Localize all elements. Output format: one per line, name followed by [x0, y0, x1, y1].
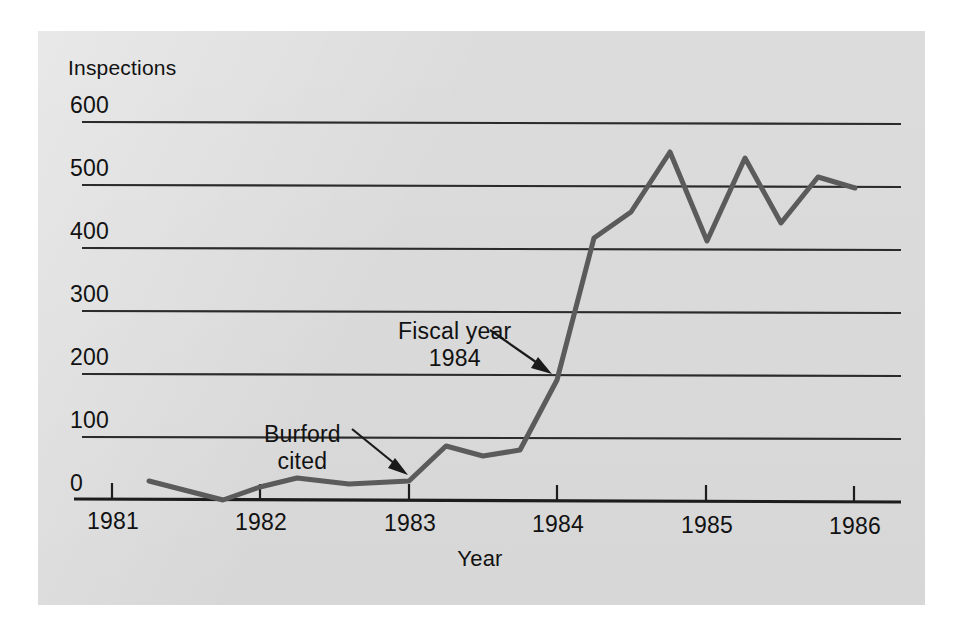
- y-tick-label-0: 0: [70, 470, 83, 497]
- y-axis-title: Inspections: [68, 56, 176, 80]
- y-tick-label-300: 300: [70, 281, 109, 308]
- gridline-500: [82, 185, 901, 187]
- annotation-fiscal-year: Fiscal year 1984: [398, 318, 511, 372]
- x-tick-label-1981: 1981: [87, 508, 139, 535]
- gridline-600: [82, 122, 901, 124]
- annotation-burford-line2: cited: [264, 448, 341, 475]
- gridline-100: [82, 437, 901, 439]
- x-tick-label-1984: 1984: [532, 511, 584, 538]
- gridline-300: [82, 311, 901, 313]
- x-tick-label-1985: 1985: [681, 512, 733, 539]
- x-tick-label-1986: 1986: [829, 513, 881, 540]
- x-tick-label-1982: 1982: [235, 509, 287, 536]
- figure-container: Inspections 600 500 400 300 200 100 0 19…: [0, 0, 959, 636]
- y-tick-label-400: 400: [70, 218, 109, 245]
- y-tick-label-500: 500: [70, 155, 109, 182]
- gridline-400: [82, 248, 901, 250]
- x-tick-label-1983: 1983: [384, 510, 436, 537]
- x-axis-title: Year: [457, 546, 502, 572]
- gridline-200: [82, 374, 901, 376]
- burford-leader: [352, 429, 408, 475]
- y-tick-label-600: 600: [70, 92, 109, 119]
- annotation-burford-line1: Burford: [264, 421, 341, 448]
- gridlines: [82, 122, 901, 439]
- annotation-fiscal-line2: 1984: [398, 345, 511, 372]
- annotation-fiscal-line1: Fiscal year: [398, 318, 511, 345]
- y-tick-label-200: 200: [70, 344, 109, 371]
- x-axis-line: [74, 499, 901, 502]
- annotation-burford-cited: Burford cited: [264, 421, 341, 475]
- y-tick-label-100: 100: [70, 407, 109, 434]
